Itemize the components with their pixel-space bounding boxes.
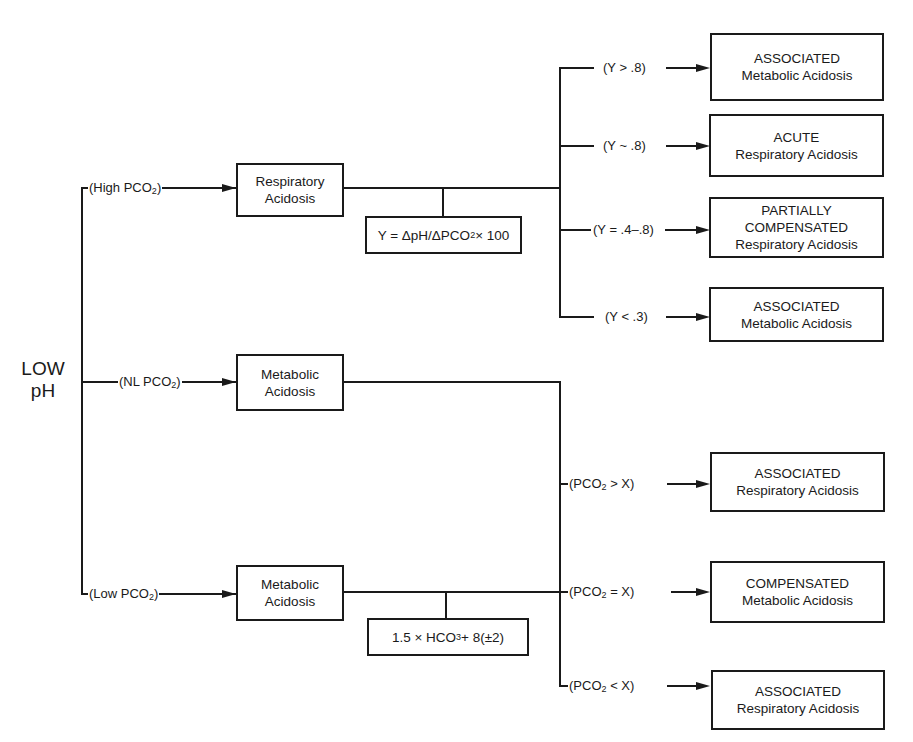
resp-outcome-connector-3 [559, 229, 591, 231]
outcome-line1: ASSOCIATED [754, 50, 840, 67]
resp-outcome-arrow-line-2 [666, 145, 698, 147]
arrow-icon [696, 313, 710, 321]
arrow-icon [696, 588, 710, 596]
resp-outcome-connector-2 [559, 145, 594, 147]
cond-text: (PCO [569, 678, 602, 693]
arrow-icon [696, 142, 710, 150]
resp-outcome-trunk [559, 67, 561, 318]
cond-post: > X) [607, 476, 635, 491]
outcome-line1: ACUTE [774, 129, 820, 146]
nl-arrow-line [193, 381, 223, 383]
condition-pco2-eq-x: (PCO2 = X) [568, 585, 635, 599]
condition-y-04-08: (Y = .4–.8) [592, 223, 655, 237]
arrow-icon [222, 590, 236, 598]
condition-pco2-lt-x: (PCO2 < X) [568, 679, 635, 693]
outcome-associated-respiratory-acidosis-2: ASSOCIATED Respiratory Acidosis [711, 670, 885, 730]
cond-post: = X) [607, 584, 635, 599]
cond-text: (High PCO [89, 180, 152, 195]
condition-pco2-gt-x: (PCO2 > X) [568, 477, 635, 491]
node-line1: Metabolic [261, 366, 319, 383]
root-line2: pH [18, 380, 68, 402]
condition-y-approx-08: (Y ~ .8) [602, 139, 647, 153]
low-out-line [343, 591, 559, 593]
node-respiratory-acidosis: Respiratory Acidosis [236, 163, 344, 217]
outcome-line1: PARTIALLY [761, 202, 832, 219]
outcome-line2: Respiratory Acidosis [736, 482, 858, 499]
cond-text: (PCO [569, 584, 602, 599]
arrow-icon [696, 226, 710, 234]
outcome-line1: ASSOCIATED [754, 465, 840, 482]
node-metabolic-acidosis-nl: Metabolic Acidosis [236, 354, 344, 411]
cond-post: ) [176, 374, 180, 389]
outcome-line2: Respiratory Acidosis [735, 146, 857, 163]
node-line2: Acidosis [265, 190, 315, 207]
resp-outcome-connector-1 [559, 67, 594, 69]
root-node-low-ph: LOW pH [18, 358, 68, 402]
formula-post: + 8(±2) [461, 629, 504, 646]
resp-outcome-arrow-line-4 [666, 316, 698, 318]
main-trunk-line [81, 187, 83, 595]
node-line2: Acidosis [265, 593, 315, 610]
node-line2: Acidosis [265, 383, 315, 400]
arrow-icon [696, 480, 710, 488]
cond-text: (Low PCO [89, 586, 149, 601]
node-line1: Metabolic [261, 576, 319, 593]
metabolic-outcome-trunk [559, 381, 561, 686]
met-outcome-arrow-line-3 [667, 685, 697, 687]
arrow-icon [222, 378, 236, 386]
formula1-stem [442, 187, 444, 217]
arrow-icon [222, 184, 236, 192]
met-outcome-arrow-line-1 [667, 483, 697, 485]
cond-post: ) [154, 586, 158, 601]
cond-text: (NL PCO [119, 374, 171, 389]
cond-post: ) [157, 180, 161, 195]
outcome-line2: COMPENSATED [745, 219, 848, 236]
condition-low-pco2: (Low PCO2) [88, 587, 159, 601]
formula-post: × 100 [475, 227, 509, 244]
condition-high-pco2: (High PCO2) [88, 181, 162, 195]
formula-y-ratio: Y = ΔpH/ΔPCO2 × 100 [365, 216, 522, 254]
formula-text: 1.5 × HCO [392, 629, 456, 646]
outcome-line2: Metabolic Acidosis [741, 315, 852, 332]
outcome-line1: COMPENSATED [746, 575, 849, 592]
node-metabolic-acidosis-low: Metabolic Acidosis [236, 565, 344, 621]
met-outcome-arrow-line-2 [671, 591, 697, 593]
resp-outcome-arrow-line-1 [666, 67, 698, 69]
outcome-line1: ASSOCIATED [753, 298, 839, 315]
cond-post: < X) [607, 678, 635, 693]
outcome-line3: Respiratory Acidosis [735, 236, 857, 253]
outcome-line2: Metabolic Acidosis [741, 67, 852, 84]
formula2-stem [445, 591, 447, 619]
root-line1: LOW [18, 358, 68, 380]
resp-out-line [343, 187, 561, 189]
formula-expected-pco2: 1.5 × HCO3 + 8(±2) [367, 618, 529, 656]
outcome-line2: Metabolic Acidosis [742, 592, 853, 609]
condition-nl-pco2: (NL PCO2) [118, 375, 182, 389]
cond-text: (PCO [569, 476, 602, 491]
outcome-associated-metabolic-acidosis-2: ASSOCIATED Metabolic Acidosis [709, 287, 884, 342]
arrow-icon [696, 64, 710, 72]
outcome-acute-respiratory-acidosis: ACUTE Respiratory Acidosis [709, 114, 884, 177]
node-line1: Respiratory [255, 173, 324, 190]
resp-outcome-connector-4 [559, 316, 594, 318]
outcome-line1: ASSOCIATED [755, 683, 841, 700]
condition-y-gt-08: (Y > .8) [602, 61, 647, 75]
nl-out-line [343, 381, 561, 383]
outcome-partially-compensated-respiratory-acidosis: PARTIALLY COMPENSATED Respiratory Acidos… [709, 197, 884, 258]
outcome-associated-respiratory-acidosis: ASSOCIATED Respiratory Acidosis [710, 452, 885, 512]
outcome-associated-metabolic-acidosis: ASSOCIATED Metabolic Acidosis [710, 33, 884, 101]
outcome-compensated-metabolic-acidosis: COMPENSATED Metabolic Acidosis [710, 561, 885, 623]
resp-outcome-arrow-line-3 [665, 229, 698, 231]
condition-y-lt-03: (Y < .3) [604, 310, 649, 324]
formula-text: Y = ΔpH/ΔPCO [378, 227, 470, 244]
outcome-line2: Respiratory Acidosis [737, 700, 859, 717]
arrow-icon [696, 682, 710, 690]
